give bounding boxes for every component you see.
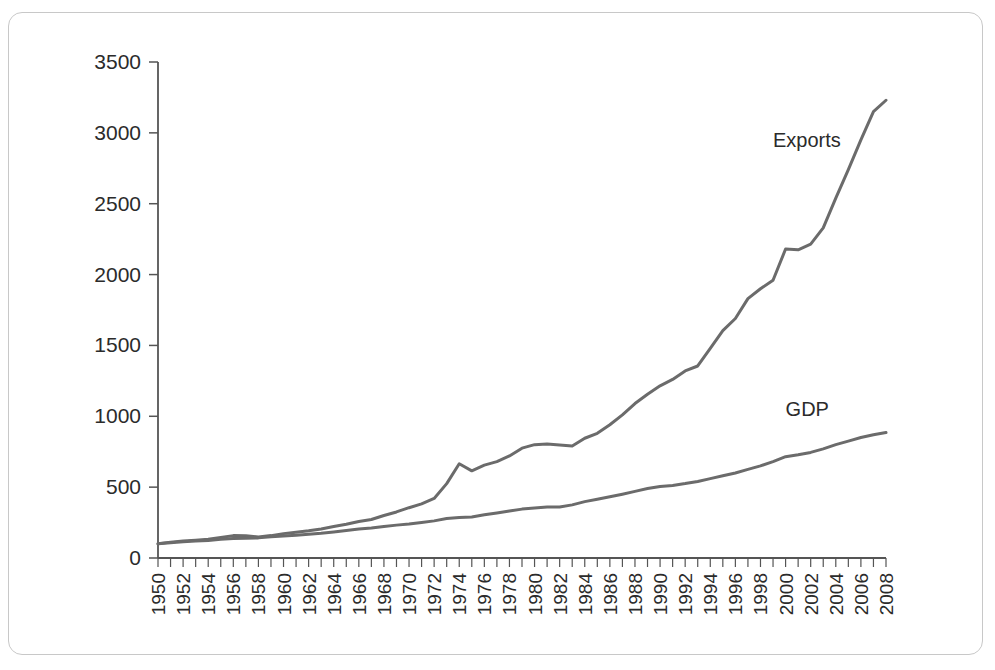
x-tick-label: 1984	[575, 573, 596, 616]
x-tick-label: 2004	[826, 573, 847, 616]
y-tick-label: 1000	[94, 404, 141, 427]
series-label-exports: Exports	[773, 129, 841, 151]
y-tick-label: 2000	[94, 263, 141, 286]
x-tick-label: 1958	[248, 573, 269, 615]
x-tick-label: 1974	[449, 573, 470, 616]
x-tick-label: 1954	[198, 573, 219, 616]
line-chart: 0500100015002000250030003500 19501952195…	[0, 0, 995, 670]
x-tick-label: 1986	[600, 573, 621, 615]
series-line-exports	[158, 100, 886, 544]
x-tick-label: 2000	[776, 573, 797, 615]
x-axis: 1950195219541956195819601962196419661968…	[148, 558, 897, 615]
series-annotations: ExportsGDP	[773, 129, 841, 420]
x-tick-label: 1998	[750, 573, 771, 615]
x-tick-label: 1992	[675, 573, 696, 615]
x-tick-label: 1960	[274, 573, 295, 615]
x-tick-label: 1956	[223, 573, 244, 615]
y-tick-label: 0	[129, 546, 141, 569]
x-tick-label: 1982	[550, 573, 571, 615]
x-tick-label: 1980	[525, 573, 546, 615]
x-tick-label: 2006	[851, 573, 872, 615]
x-tick-label: 1994	[700, 573, 721, 616]
y-tick-label: 3000	[94, 121, 141, 144]
y-tick-label: 500	[106, 475, 141, 498]
x-tick-label: 1996	[725, 573, 746, 615]
x-tick-label: 1976	[474, 573, 495, 615]
x-tick-label: 1964	[324, 573, 345, 616]
y-tick-label: 2500	[94, 192, 141, 215]
chart-svg: 0500100015002000250030003500 19501952195…	[0, 0, 995, 670]
x-tick-label: 1968	[374, 573, 395, 615]
x-tick-label: 2008	[876, 573, 897, 615]
x-tick-label: 1950	[148, 573, 169, 615]
x-tick-label: 1978	[499, 573, 520, 615]
x-tick-label: 1990	[650, 573, 671, 615]
y-tick-label: 1500	[94, 333, 141, 356]
x-tick-label: 1952	[173, 573, 194, 615]
series-label-gdp: GDP	[786, 398, 829, 420]
x-tick-label: 1988	[625, 573, 646, 615]
x-tick-label: 2002	[801, 573, 822, 615]
x-tick-label: 1972	[424, 573, 445, 615]
x-tick-label: 1962	[299, 573, 320, 615]
x-tick-label: 1966	[349, 573, 370, 615]
x-tick-label: 1970	[399, 573, 420, 615]
y-axis: 0500100015002000250030003500	[94, 50, 158, 569]
series-lines	[158, 100, 886, 544]
y-tick-label: 3500	[94, 50, 141, 73]
